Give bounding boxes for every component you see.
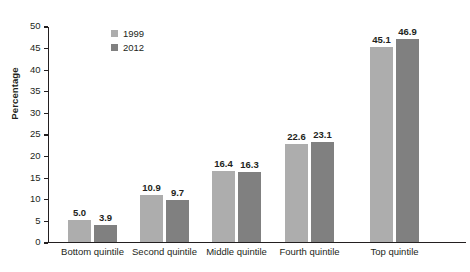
bar[interactable]: 16.3	[238, 172, 261, 242]
y-axis-tick: 40	[44, 70, 49, 71]
x-axis-line	[48, 242, 466, 243]
y-axis-tick-label: 15	[30, 171, 41, 184]
bar[interactable]: 22.6	[285, 144, 308, 242]
y-axis-tick-label: 30	[30, 106, 41, 119]
y-axis-tick: 30	[44, 113, 49, 114]
plot-area: 05101520253035404550 19992012 5.03.910.9…	[48, 10, 466, 243]
bar-value-label: 5.0	[73, 207, 86, 218]
bar-group: 5.03.9	[68, 10, 117, 242]
bar[interactable]: 3.9	[94, 225, 117, 242]
bar-value-label: 22.6	[287, 131, 306, 142]
y-axis-tick: 15	[44, 178, 49, 179]
bar-chart: Percentage 05101520253035404550 19992012…	[0, 0, 470, 272]
y-axis-tick-label: 50	[30, 19, 41, 32]
bar-group: 10.99.7	[140, 10, 189, 242]
bar[interactable]: 5.0	[68, 220, 91, 242]
y-axis-tick-label: 45	[30, 41, 41, 54]
bar-value-label: 16.4	[214, 158, 233, 169]
bar-value-label: 23.1	[313, 129, 332, 140]
y-axis-tick: 10	[44, 199, 49, 200]
y-axis-tick-label: 35	[30, 84, 41, 97]
y-axis-tick-label: 10	[30, 192, 41, 205]
y-axis-line	[48, 27, 49, 243]
bar-group: 22.623.1	[285, 10, 334, 242]
y-axis-tick: 50	[44, 26, 49, 27]
bar-value-label: 9.7	[171, 187, 184, 198]
bar[interactable]: 10.9	[140, 195, 163, 242]
y-axis-tick-label: 40	[30, 63, 41, 76]
y-axis-tick-label: 5	[35, 214, 40, 227]
y-axis-tick-label: 20	[30, 149, 41, 162]
bar-value-label: 3.9	[99, 212, 112, 223]
y-axis-tick-label: 25	[30, 127, 41, 140]
bar[interactable]: 46.9	[396, 39, 419, 242]
bar[interactable]: 16.4	[212, 171, 235, 242]
bar[interactable]: 45.1	[370, 47, 393, 242]
bar[interactable]: 23.1	[311, 142, 334, 242]
y-axis-tick: 45	[44, 48, 49, 49]
y-axis-title: Percentage	[9, 49, 20, 139]
y-axis-tick: 0	[44, 242, 49, 243]
y-axis-tick: 5	[44, 221, 49, 222]
x-axis-label: Top quintile	[340, 246, 450, 257]
bar-value-label: 45.1	[372, 34, 391, 45]
bar-group: 45.146.9	[370, 10, 419, 242]
bar-value-label: 46.9	[398, 26, 417, 37]
y-axis-tick: 25	[44, 134, 49, 135]
y-axis-tick: 35	[44, 91, 49, 92]
bar[interactable]: 9.7	[166, 200, 189, 242]
bar-value-label: 10.9	[142, 182, 161, 193]
bar-group: 16.416.3	[212, 10, 261, 242]
y-axis-tick: 20	[44, 156, 49, 157]
bar-value-label: 16.3	[240, 159, 259, 170]
